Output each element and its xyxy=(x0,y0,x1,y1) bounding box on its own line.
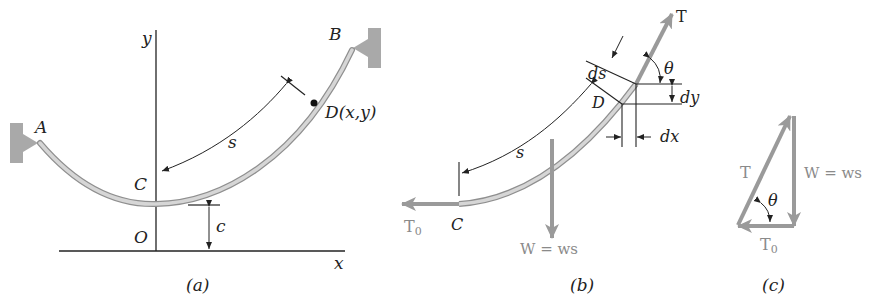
label-ds: ds xyxy=(588,64,606,83)
cable-segment xyxy=(459,84,636,204)
panel-a: y x A B C O D(x,y) s c (a) xyxy=(10,24,381,295)
caption-a: (a) xyxy=(186,275,209,295)
cable xyxy=(40,50,352,204)
label-s: s xyxy=(228,132,237,152)
cable-segment-edge xyxy=(459,84,636,204)
label-w-c: W = ws xyxy=(804,164,862,182)
label-c-dim: c xyxy=(216,216,226,236)
label-dx: dx xyxy=(660,127,679,146)
label-y: y xyxy=(141,28,152,48)
label-x: x xyxy=(334,253,344,273)
catenary-figure: y x A B C O D(x,y) s c (a) xyxy=(0,0,876,307)
label-c-point: C xyxy=(134,174,147,194)
point-d xyxy=(311,100,318,107)
label-theta: θ xyxy=(664,59,674,78)
label-d: D(x,y) xyxy=(324,102,377,122)
label-s-b: s xyxy=(516,143,524,162)
label-w-b: W = ws xyxy=(520,240,578,258)
label-o: O xyxy=(134,227,148,247)
ds-arrow xyxy=(612,36,623,58)
s-arc-arrow-b xyxy=(462,84,591,173)
label-t0-b: T0 xyxy=(404,217,422,238)
panel-c: T θ W = ws T0 (c) xyxy=(738,116,862,295)
label-c-b: C xyxy=(451,215,463,234)
support-b-wall xyxy=(368,28,381,68)
label-t-c: T xyxy=(740,163,751,182)
support-b-pin xyxy=(353,39,368,57)
caption-b: (b) xyxy=(570,275,594,295)
label-theta-c: θ xyxy=(768,191,778,210)
label-dy: dy xyxy=(680,88,700,107)
support-a-wall xyxy=(10,123,23,163)
label-a: A xyxy=(33,117,47,137)
caption-c: (c) xyxy=(762,275,785,295)
label-t: T xyxy=(676,7,687,26)
panel-b: T θ ds dy dx D s T0 C W = ws (b) xyxy=(402,7,700,295)
label-d-b: D xyxy=(591,93,605,112)
label-b: B xyxy=(328,24,342,44)
theta-arc xyxy=(650,58,660,83)
label-t0-c: T0 xyxy=(760,235,778,256)
